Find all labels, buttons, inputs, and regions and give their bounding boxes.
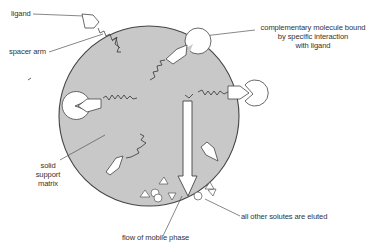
label-complementary-line1: complementary molecule bound — [257, 23, 369, 32]
label-complementary-line3: with ligand — [257, 41, 369, 50]
label-flow-mobile-phase: flow of mobile phase — [122, 233, 189, 242]
label-matrix-line2: support — [30, 170, 66, 179]
label-solid-support-matrix: solid support matrix — [30, 161, 66, 188]
label-eluted-solutes: all other solutes are eluted — [241, 212, 327, 221]
label-complementary-molecule: complementary molecule bound by specific… — [257, 23, 369, 50]
label-matrix-line1: solid — [30, 161, 66, 170]
label-matrix-line3: matrix — [30, 179, 66, 188]
label-complementary-line2: by specific interaction — [257, 32, 369, 41]
label-ligand: ligand — [11, 9, 31, 18]
label-spacer-arm: spacer arm — [9, 47, 46, 56]
